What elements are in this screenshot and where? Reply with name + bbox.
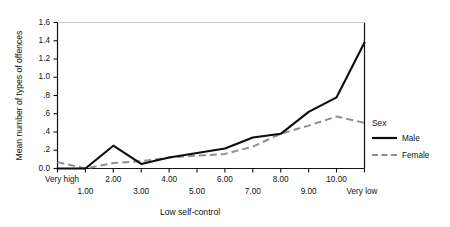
x-tick-label: Very low — [347, 187, 378, 196]
x-tick-label: 6.00 — [217, 175, 233, 184]
x-tick-label: 7.00 — [245, 187, 261, 196]
y-tick-label: .4 — [43, 127, 50, 136]
y-axis-title: Mean number of types of offences — [14, 31, 24, 161]
chart-figure: 1.6 1.4 1.2 1.0 .8 .6 .4 .2 0.0 — [0, 0, 450, 227]
x-axis-tick-labels-lower: 1.00 3.00 5.00 7.00 9.00 Very low — [77, 187, 377, 196]
x-axis-title: Low self-control — [160, 207, 220, 217]
y-tick-label: 1.4 — [39, 36, 51, 45]
y-axis-tick-labels: 1.6 1.4 1.2 1.0 .8 .6 .4 .2 0.0 — [39, 18, 51, 173]
legend-title: Sex — [372, 118, 387, 128]
y-tick-label: 0.0 — [39, 164, 51, 173]
legend-label-male: Male — [402, 134, 420, 143]
series-line-male — [58, 43, 365, 169]
x-tick-label: 9.00 — [301, 187, 317, 196]
x-axis-ticks — [58, 169, 365, 173]
y-tick-label: .2 — [43, 145, 50, 154]
x-axis-tick-labels-upper: Very high 2.00 4.00 6.00 8.00 10.00 — [45, 175, 347, 184]
series-line-female — [58, 116, 365, 168]
legend: Sex Male Female — [372, 118, 430, 160]
x-tick-label: 10.00 — [326, 175, 347, 184]
x-tick-label: 3.00 — [133, 187, 149, 196]
legend-label-female: Female — [402, 151, 430, 160]
y-tick-label: .6 — [43, 109, 50, 118]
x-tick-label: 8.00 — [273, 175, 289, 184]
x-tick-label: 4.00 — [161, 175, 177, 184]
y-tick-label: .8 — [43, 91, 50, 100]
x-tick-label: 2.00 — [105, 175, 121, 184]
y-tick-label: 1.2 — [39, 54, 51, 63]
y-tick-label: 1.0 — [39, 72, 51, 81]
x-tick-label: 5.00 — [189, 187, 205, 196]
plot-axes — [58, 23, 365, 169]
line-chart-svg: 1.6 1.4 1.2 1.0 .8 .6 .4 .2 0.0 — [0, 0, 450, 227]
x-tick-label: 1.00 — [77, 187, 93, 196]
x-tick-label: Very high — [45, 175, 80, 184]
y-tick-label: 1.6 — [39, 18, 51, 27]
